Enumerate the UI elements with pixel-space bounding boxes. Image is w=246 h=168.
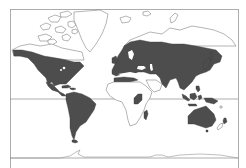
pacific-islands [220,106,222,108]
range-philippines [196,86,200,92]
africa [106,82,152,126]
iceland [120,16,131,23]
novaya-zemlya [170,13,178,23]
antarctica [10,150,238,158]
range-tasmania [206,130,208,132]
range-new-zealand-north [223,118,227,124]
great-lakes-2 [60,69,62,71]
range-north-africa [114,77,138,82]
range-caribbean [62,85,71,88]
arctic-canada-islands [38,11,78,45]
world-distribution-map [0,0,246,168]
range-australia [188,106,216,128]
range-madagascar [144,110,148,120]
range-tierra-del-fuego [72,140,78,143]
svalbard [143,11,151,16]
range-sumatra [182,94,190,101]
range-java [188,104,197,106]
new-zealand-south [217,123,223,130]
range-caribbean-2 [70,88,76,90]
greenland [74,10,108,52]
great-lakes [63,67,66,70]
